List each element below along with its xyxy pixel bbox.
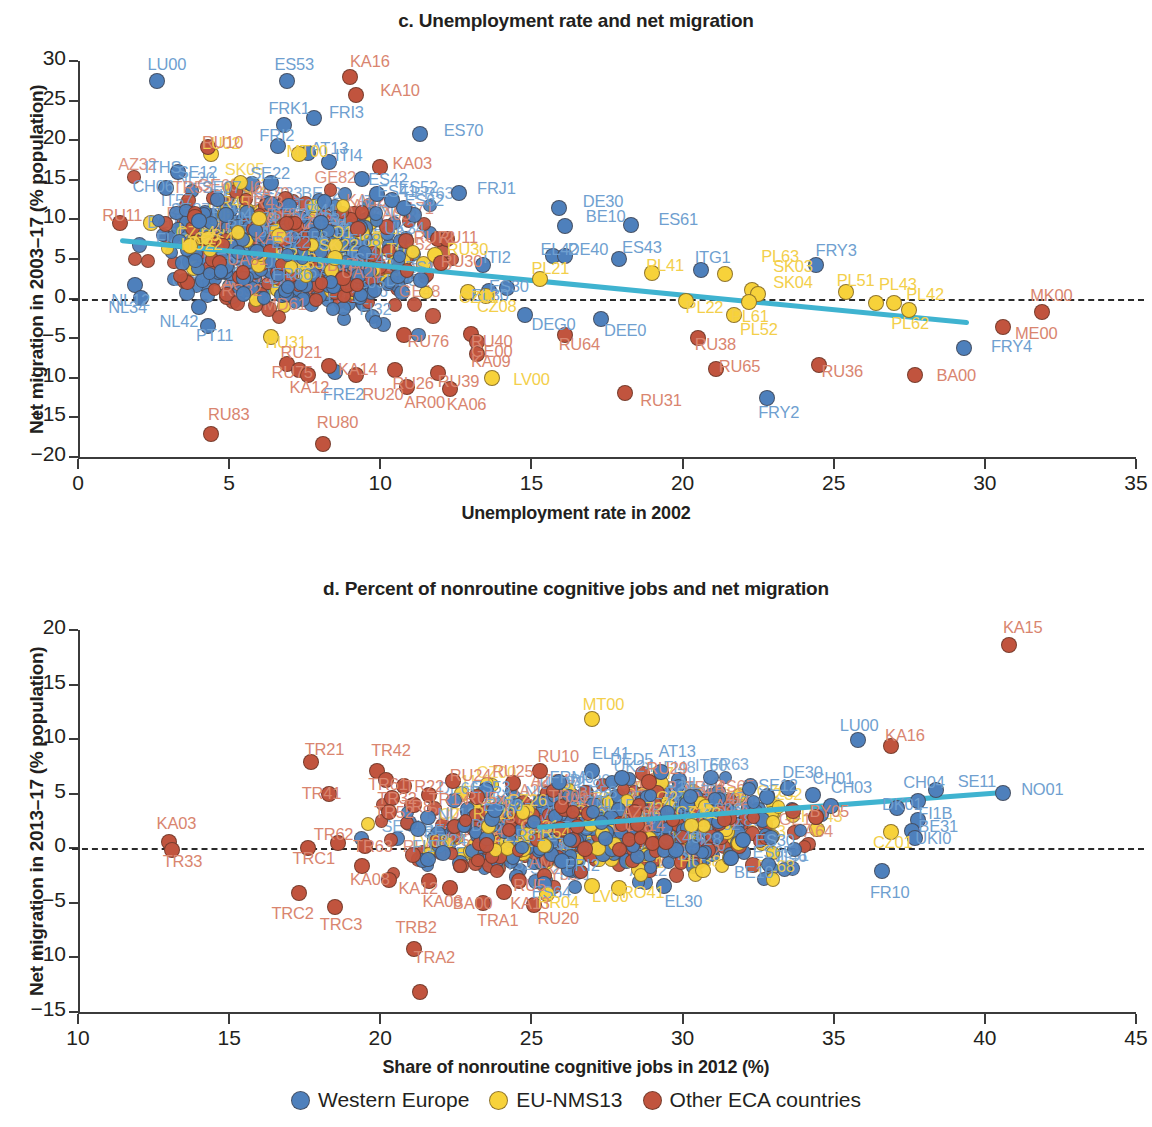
scatter-point-label: DEE0 (604, 321, 646, 340)
scatter-point-label: RU29 (646, 759, 687, 778)
scatter-point[interactable] (617, 385, 633, 401)
y-tick (69, 956, 78, 958)
y-tick (69, 1011, 78, 1013)
scatter-point-label: FRI2 (565, 856, 600, 875)
legend-item-eca[interactable]: Other ECA countries (643, 1088, 861, 1112)
x-tick (984, 459, 986, 469)
scatter-point[interactable] (315, 436, 331, 452)
scatter-point-label: KA16 (885, 726, 925, 745)
scatter-point-label: MT00 (583, 695, 624, 714)
scatter-point-label: AR00 (404, 393, 444, 412)
scatter-point-label: TR63 (353, 837, 393, 856)
x-tick (984, 1014, 986, 1024)
scatter-point-label: DK01 (882, 795, 922, 814)
scatter-point[interactable] (551, 200, 567, 216)
scatter-point[interactable] (995, 785, 1011, 801)
scatter-point[interactable] (956, 340, 972, 356)
y-tick (69, 416, 78, 418)
y-tick-label: 5 (2, 244, 66, 268)
scatter-point[interactable] (321, 358, 337, 374)
legend-label: Other ECA countries (670, 1088, 861, 1112)
point-cloud: SI88DE64IT10RO06BE06KA08DE35DE36PL16KA37… (78, 61, 1136, 457)
y-tick-label: 0 (2, 833, 66, 857)
scatter-point[interactable] (203, 426, 219, 442)
x-tick (228, 1014, 230, 1024)
y-tick (69, 738, 78, 740)
scatter-point[interactable] (412, 126, 428, 142)
scatter-point-label: RU10 (537, 747, 578, 766)
scatter-point-label: RU24 (450, 766, 491, 785)
x-tick-label: 20 (350, 1026, 410, 1050)
scatter-point[interactable] (805, 787, 821, 803)
scatter-point-label: ES61 (658, 210, 698, 229)
x-tick (379, 1014, 381, 1024)
y-tick (69, 100, 78, 102)
x-tick-label: 15 (199, 1026, 259, 1050)
scatter-point-label: CH06 (132, 177, 173, 196)
y-tick-label: −15 (2, 997, 66, 1021)
scatter-point-label: FR86 (272, 265, 312, 284)
scatter-point-label: FRM0 (550, 768, 594, 787)
legend-item-eu[interactable]: EU-NMS13 (489, 1088, 622, 1112)
scatter-point[interactable] (484, 370, 500, 386)
y-tick (69, 179, 78, 181)
scatter-point-label: RU83 (208, 405, 249, 424)
scatter-point[interactable] (342, 69, 358, 85)
scatter-point-label: PL41 (646, 256, 684, 275)
scatter-point-label: FRJ1 (477, 179, 516, 198)
y-tick-label: 25 (2, 86, 66, 110)
x-tick (77, 459, 79, 469)
panel-d-plot-area: −15−10−5051015201015202530354045CZ83AT58… (78, 630, 1136, 1012)
scatter-point-label: DE40 (568, 240, 608, 259)
scatter-point-label: ES62 (404, 191, 444, 210)
legend-item-we[interactable]: Western Europe (291, 1088, 469, 1112)
scatter-point-label: RU11 (438, 228, 478, 247)
scatter-point-label: BE10 (586, 207, 626, 226)
scatter-point-label: NL12 (111, 291, 150, 310)
scatter-point[interactable] (907, 367, 923, 383)
scatter-point[interactable] (279, 73, 295, 89)
scatter-point-label: TRC2 (271, 904, 313, 923)
scatter-point-label: EL41 (592, 744, 630, 763)
y-tick (69, 60, 78, 62)
scatter-point[interactable] (412, 984, 428, 1000)
x-tick-label: 30 (955, 471, 1015, 495)
scatter-point[interactable] (291, 885, 307, 901)
scatter-point-label: TR62 (314, 825, 354, 844)
legend-swatch-eca-icon (643, 1091, 662, 1110)
scatter-point-label: TR41 (302, 784, 342, 803)
scatter-point[interactable] (557, 218, 573, 234)
scatter-point-label: KA12 (290, 378, 330, 397)
scatter-point[interactable] (717, 266, 733, 282)
x-tick (833, 459, 835, 469)
y-tick-label: 5 (2, 779, 66, 803)
scatter-point-label: TRB2 (395, 918, 436, 937)
y-tick (69, 218, 78, 220)
scatter-point[interactable] (995, 319, 1011, 335)
scatter-point-label: KA16 (350, 52, 390, 71)
panel-d-x-axis-label: Share of nonroutine cognitive jobs in 20… (0, 1057, 1152, 1078)
y-tick (69, 139, 78, 141)
scatter-point-label: FR24 (427, 831, 467, 850)
scatter-point (658, 834, 674, 850)
scatter-point (173, 269, 187, 283)
scatter-point (490, 864, 504, 878)
scatter-point[interactable] (623, 217, 639, 233)
scatter-point (742, 782, 756, 796)
y-tick-label: 30 (2, 46, 66, 70)
x-axis-line (78, 457, 1136, 459)
panel-d-title: d. Percent of nonroutine cognitive jobs … (0, 578, 1152, 600)
scatter-point-label: TR33 (163, 852, 203, 871)
y-tick-label: 10 (2, 204, 66, 228)
scatter-point-label: RU36 (822, 362, 863, 381)
panel-c-title: c. Unemployment rate and net migration (0, 10, 1152, 32)
scatter-point-label: TRA1 (477, 911, 518, 930)
scatter-point-label: RU31 (640, 391, 681, 410)
scatter-point-label: NL42 (160, 312, 199, 331)
scatter-point[interactable] (735, 832, 751, 848)
scatter-point[interactable] (191, 213, 207, 229)
scatter-point[interactable] (149, 73, 165, 89)
y-tick (69, 684, 78, 686)
scatter-point-label: PL21 (531, 259, 569, 278)
scatter-point-label: FRK1 (268, 99, 309, 118)
